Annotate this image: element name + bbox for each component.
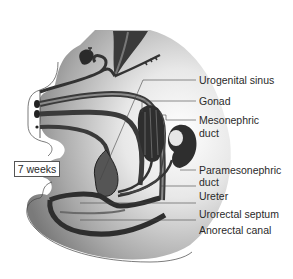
- kidney-highlight: [169, 130, 183, 146]
- label-paramesonephric-duct: Paramesonephric: [199, 164, 281, 176]
- stage-label: 7 weeks: [14, 161, 60, 177]
- opening-lower: [35, 125, 38, 128]
- label-anorectal-canal: Anorectal canal: [199, 224, 271, 236]
- opening-upper: [34, 100, 40, 108]
- label-mesonephric-duct-line2: duct: [199, 127, 219, 139]
- label-gonad: Gonad: [199, 95, 231, 107]
- label-ureter: Ureter: [199, 190, 228, 202]
- label-paramesonephric-duct-line2: duct: [199, 176, 219, 188]
- anatomy-diagram: [0, 0, 293, 279]
- label-mesonephric-duct: Mesonephric: [199, 114, 259, 126]
- label-urorectal-septum: Urorectal septum: [199, 208, 279, 220]
- opening-middle: [34, 110, 40, 118]
- label-urogenital-sinus: Urogenital sinus: [199, 74, 274, 86]
